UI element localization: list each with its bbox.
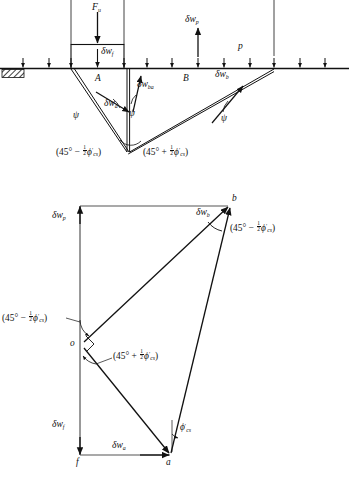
psi-right-label: ψ bbox=[221, 113, 227, 123]
hodograph-dw-f-label: δwf bbox=[52, 419, 65, 431]
hodograph-dw-a-label: δwa bbox=[112, 440, 126, 452]
psi-left-label: ψ bbox=[73, 110, 79, 120]
surcharge-label: p bbox=[238, 41, 243, 51]
angle-arc-o-upper bbox=[80, 320, 89, 336]
hodograph-point-a-label: a bbox=[166, 458, 171, 467]
dw-p-label: δwp bbox=[185, 14, 199, 26]
hodograph-dw-b-label: δwb bbox=[196, 207, 210, 219]
hodograph-point-o-label: o bbox=[70, 339, 75, 348]
hodograph-angle-o-upper-label: (45° − 12ϕ′cs) bbox=[2, 311, 47, 324]
hodograph-angle-b-label: (45° − 12ϕ′cs) bbox=[230, 221, 275, 234]
top-diagram bbox=[0, 0, 349, 154]
applied-load-label: Fu bbox=[92, 2, 101, 14]
hodograph-angle-o-lower-label: (45° + 12ϕ′cs) bbox=[113, 349, 158, 362]
leader-o-lower bbox=[96, 358, 112, 364]
wedge-angle-right-label: (45° + 12ϕ′cs) bbox=[143, 145, 188, 158]
psi-mid-label: ψ bbox=[129, 108, 135, 118]
a-to-b-vector bbox=[171, 208, 230, 453]
hodograph-dw-p-label: δwp bbox=[52, 210, 66, 222]
leader-o-upper bbox=[66, 318, 80, 322]
hodograph-point-b-label: b bbox=[232, 194, 237, 203]
hodograph-point-f-label: f bbox=[76, 458, 79, 467]
dw-a-label: δwa bbox=[104, 98, 118, 110]
surcharge-arrows bbox=[23, 58, 325, 67]
hodograph-diagram bbox=[66, 206, 230, 455]
dw-ba-label: δwba bbox=[137, 79, 154, 91]
dw-f-label: δwf bbox=[101, 46, 114, 58]
apex-angle-arcs bbox=[120, 140, 141, 145]
wedge-angle-left-label: (45° − 12ϕ′cs) bbox=[56, 145, 101, 158]
wedge-b-label: B bbox=[183, 74, 189, 83]
o-to-b-vector bbox=[84, 207, 228, 342]
dw-b-label: δwb bbox=[215, 69, 229, 81]
hatched-support bbox=[2, 70, 24, 78]
wedge-a-label: A bbox=[95, 74, 101, 83]
hodograph-angle-a-label: ϕ′cs bbox=[180, 423, 191, 433]
